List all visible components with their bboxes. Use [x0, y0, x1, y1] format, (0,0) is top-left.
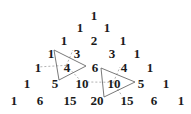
pascal-entry: 3: [109, 47, 116, 60]
pascal-entry: 1: [147, 61, 154, 74]
pascal-entry: 10: [76, 77, 89, 90]
pascal-entry: 1: [77, 21, 84, 34]
pascal-entry: 1: [11, 94, 18, 107]
dashed-connector: [37, 65, 66, 67]
pascal-entry: 10: [108, 77, 121, 90]
pascal-entry: 1: [35, 61, 42, 74]
pascal-entry: 1: [163, 77, 170, 90]
pascal-entry: 6: [92, 61, 99, 74]
pascal-entry: 1: [48, 47, 55, 60]
pascal-entry: 2: [91, 34, 98, 47]
pascal-entry: 3: [74, 47, 81, 60]
pascal-entry: 1: [120, 34, 127, 47]
pascal-entry: 1: [24, 77, 31, 90]
pascal-entry: 1: [104, 21, 111, 34]
pascal-entry: 5: [52, 77, 59, 90]
pascal-entry: 6: [37, 94, 44, 107]
pascal-entry: 4: [121, 61, 128, 74]
pascal-entry: 5: [138, 77, 145, 90]
pascal-entry: 1: [91, 9, 98, 22]
pascal-triangle-diagram: 111121133114641151010511615201561: [0, 0, 191, 114]
pascal-entry: 1: [178, 94, 185, 107]
pascal-entry: 15: [64, 94, 77, 107]
pascal-entry: 1: [134, 47, 141, 60]
pascal-entry: 20: [91, 94, 104, 107]
pascal-entry: 1: [61, 34, 68, 47]
pascal-entry: 4: [64, 61, 71, 74]
pascal-entry: 6: [151, 94, 158, 107]
pascal-entry: 15: [121, 94, 134, 107]
